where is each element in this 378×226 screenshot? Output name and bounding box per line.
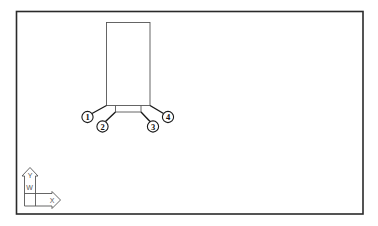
drawing-canvas: 1 2 3 4 Y W X <box>0 0 378 226</box>
callout-label: 2 <box>100 122 104 132</box>
leader-2 <box>106 112 116 122</box>
leader-1 <box>92 106 107 114</box>
ucs-icon: Y W X <box>22 168 61 209</box>
part-main-rectangle <box>107 23 151 106</box>
callout-label: 1 <box>85 112 89 122</box>
drawing-frame <box>17 12 364 215</box>
leader-3 <box>141 112 150 122</box>
callout-2: 2 <box>97 121 108 132</box>
callout-label: 3 <box>151 122 155 132</box>
ucs-y-label: Y <box>28 172 33 179</box>
ucs-w-label: W <box>26 184 33 191</box>
callout-4: 4 <box>162 111 173 122</box>
ucs-x-label: X <box>50 197 55 204</box>
part-base-box <box>116 106 142 113</box>
callout-3: 3 <box>147 121 158 132</box>
part-body <box>107 23 151 113</box>
leader-4 <box>150 106 164 114</box>
ucs-x-arrow <box>25 192 61 209</box>
leader-lines <box>92 106 164 122</box>
callout-1: 1 <box>82 111 93 122</box>
